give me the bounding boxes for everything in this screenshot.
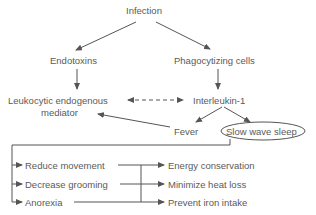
- arrow-interleukin-fever: [196, 107, 222, 122]
- node-endotoxins: Endotoxins: [50, 55, 97, 66]
- node-phagocytizing-cells: Phagocytizing cells: [174, 55, 255, 66]
- outcome-prevent-iron-intake: Prevent iron intake: [168, 197, 247, 208]
- behavior-anorexia: Anorexia: [25, 197, 63, 208]
- node-leukocytic-line1: Leukocytic endogenous: [8, 95, 108, 106]
- node-slow-wave-sleep: Slow wave sleep: [226, 126, 297, 137]
- arrow-fever-leukocytic: [98, 114, 170, 127]
- behavior-decrease-grooming: Decrease grooming: [25, 179, 108, 190]
- node-leukocytic-line2: mediator: [41, 107, 78, 118]
- arrow-infection-endotoxins: [76, 22, 136, 50]
- behavior-reduce-movement: Reduce movement: [25, 160, 105, 171]
- outcome-energy-conservation: Energy conservation: [168, 160, 255, 171]
- outcome-minimize-heat-loss: Minimize heat loss: [168, 179, 246, 190]
- node-fever: Fever: [174, 126, 198, 137]
- arrow-infection-phagocytizing: [156, 22, 210, 49]
- node-interleukin-1: Interleukin-1: [193, 95, 245, 106]
- node-infection: Infection: [126, 5, 162, 16]
- arrow-interleukin-sleep: [224, 107, 250, 122]
